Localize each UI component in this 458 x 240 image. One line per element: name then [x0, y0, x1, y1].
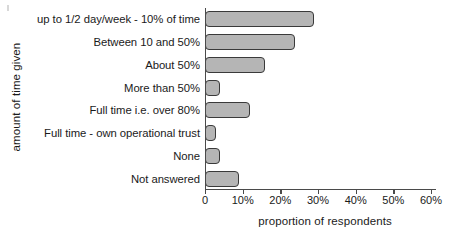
bar	[205, 148, 220, 164]
x-tick-label: 20%	[269, 194, 291, 206]
x-tick-label: 60%	[420, 194, 442, 206]
bar	[205, 80, 220, 96]
category-label: Not answered	[26, 173, 205, 185]
y-axis-title: amount of time given	[8, 2, 24, 192]
x-axis-line	[205, 189, 436, 190]
bar-track	[205, 76, 436, 99]
x-tick-label: 0	[202, 194, 208, 206]
bar-track	[205, 145, 436, 168]
category-label: More than 50%	[26, 82, 205, 94]
bar-track	[205, 8, 436, 31]
x-axis-title: proportion of respondents	[205, 215, 445, 227]
plot-area: up to 1/2 day/week - 10% of timeBetween …	[26, 8, 436, 190]
bar-track	[205, 122, 436, 145]
bar	[205, 11, 314, 27]
bar	[205, 102, 250, 118]
bar-track	[205, 167, 436, 190]
bar-row: Full time - own operational trust	[26, 122, 436, 145]
bar	[205, 171, 239, 187]
bar-chart: amount of time given up to 1/2 day/week …	[0, 0, 458, 240]
x-tick-label: 10%	[232, 194, 254, 206]
bar-row: Between 10 and 50%	[26, 31, 436, 54]
bar-row: Full time i.e. over 80%	[26, 99, 436, 122]
category-label: Full time - own operational trust	[26, 127, 205, 139]
x-tick-label: 30%	[307, 194, 329, 206]
bar-row: up to 1/2 day/week - 10% of time	[26, 8, 436, 31]
bar-track	[205, 54, 436, 77]
bar	[205, 125, 216, 141]
bar-row: None	[26, 145, 436, 168]
category-label: None	[26, 150, 205, 162]
bar-track	[205, 31, 436, 54]
x-tick-label: 40%	[345, 194, 367, 206]
bar	[205, 34, 295, 50]
category-label: Full time i.e. over 80%	[26, 104, 205, 116]
bar-row: Not answered	[26, 167, 436, 190]
category-label: Between 10 and 50%	[26, 36, 205, 48]
bar	[205, 57, 265, 73]
y-axis-line	[205, 8, 206, 190]
bar-track	[205, 99, 436, 122]
bar-row: About 50%	[26, 54, 436, 77]
bar-row: More than 50%	[26, 76, 436, 99]
category-label: up to 1/2 day/week - 10% of time	[26, 13, 205, 25]
x-tick-label: 50%	[382, 194, 404, 206]
category-label: About 50%	[26, 59, 205, 71]
